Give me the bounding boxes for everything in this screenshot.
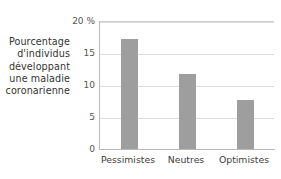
gridline-20 — [100, 22, 274, 23]
y-tick-label-20: 20 % — [55, 17, 95, 26]
y-tick-label-0: 0 — [65, 145, 95, 154]
y-tick-label-10: 10 — [65, 81, 95, 90]
y-axis-label-line-1: Pourcentage — [2, 36, 70, 48]
y-axis-label-line-2: d'individus — [2, 48, 70, 60]
y-tick-label-5: 5 — [65, 113, 95, 122]
bar-chart-figure: Pourcentage d'individus développant une … — [0, 0, 281, 179]
y-axis-label-line-4: une maladie — [2, 73, 70, 85]
bar-pessimistes — [121, 39, 138, 150]
x-tick-label-optimistes: Optimistes — [194, 154, 281, 165]
y-axis-label-line-5: coronarienne — [2, 85, 70, 97]
y-axis-label: Pourcentage d'individus développant une … — [2, 36, 70, 97]
y-axis-label-line-3: développant — [2, 61, 70, 73]
plot-area — [99, 21, 274, 150]
y-tick-label-15: 15 — [65, 49, 95, 58]
bar-neutres — [179, 74, 196, 150]
bar-optimistes — [237, 100, 254, 150]
x-axis-line — [99, 149, 275, 150]
